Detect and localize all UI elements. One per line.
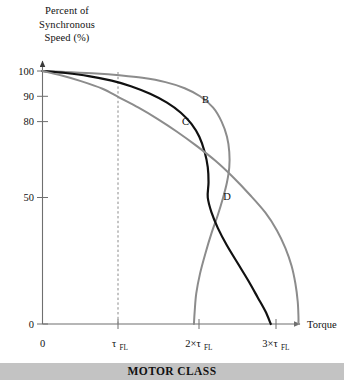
x-tick-label-0: 0 [40, 338, 45, 349]
y-tick-label-100: 100 [18, 66, 34, 77]
curve-label-d: D [223, 191, 231, 202]
motor-class-banner: MOTOR CLASS [0, 363, 344, 380]
curve-label-b: B [202, 94, 209, 105]
curve-label-c: C [182, 116, 189, 127]
y-tick-label-50: 50 [24, 192, 35, 203]
x-tick-label-3tau-fl: 3×τ FL [262, 338, 289, 352]
x-axis-label: Torque [307, 319, 337, 330]
x-tick-label-2tau-fl-main: 2×τ [185, 338, 200, 349]
x-tick-label-3tau-fl-main: 3×τ [262, 338, 277, 349]
curve-c [43, 71, 271, 324]
curve-d [43, 71, 299, 324]
x-tick-label-2tau-fl-sub: FL [204, 344, 212, 352]
x-tick-label-tau-fl-main: τ [112, 338, 116, 349]
x-tick-label-3tau-fl-sub: FL [281, 344, 289, 352]
x-tick-label-2tau-fl: 2×τ FL [185, 338, 212, 352]
y-tick-label-90: 90 [24, 91, 35, 102]
chart-canvas: 0 50 80 90 100 0 τ FL 2×τ FL 3×τ FL Torq… [0, 0, 344, 380]
y-tick-label-80: 80 [24, 116, 35, 127]
x-tick-label-tau-fl: τ FL [112, 338, 128, 352]
motor-class-torque-speed-figure: Percent of Synchronous Speed (%) 0 50 80… [0, 0, 344, 380]
series-label-layer: BCD [182, 94, 231, 202]
x-tick-label-tau-fl-sub: FL [120, 344, 128, 352]
curve-b [43, 71, 230, 324]
y-tick-label-0: 0 [29, 319, 34, 330]
series-layer [43, 71, 299, 324]
motor-class-banner-label: MOTOR CLASS [0, 365, 344, 377]
